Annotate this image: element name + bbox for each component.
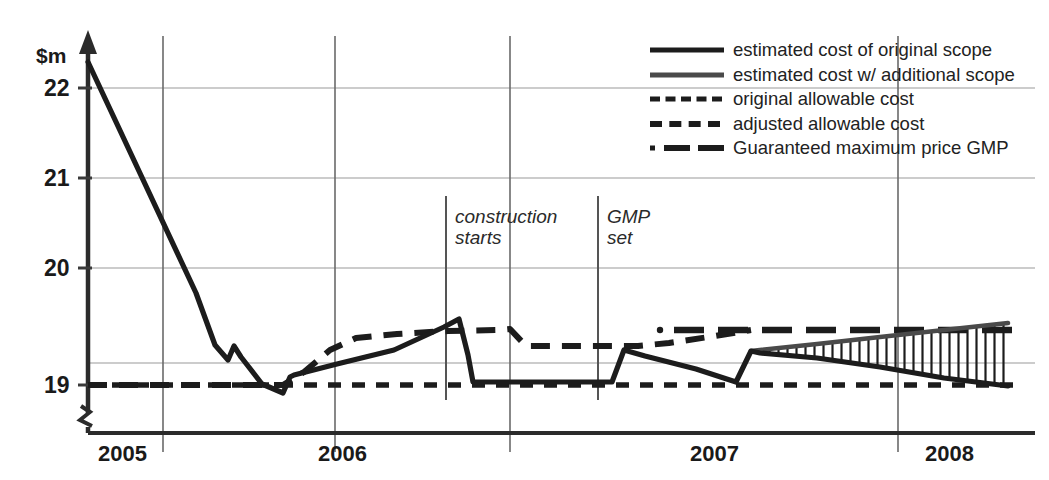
legend-swatch-solid-grey-icon — [650, 66, 724, 84]
legend-label-4: Guaranteed maximum price GMP — [733, 137, 1009, 159]
annotation-construction-starts: construction starts — [455, 206, 557, 249]
legend-swatch-solid-icon — [650, 41, 724, 59]
legend-item-estimated-cost-original-scope: estimated cost of original scope — [650, 38, 1042, 63]
annotation-construction-line2: starts — [455, 227, 557, 248]
x-tick-label-2007: 2007 — [690, 441, 739, 467]
annotation-gmp-line2: set — [607, 227, 650, 248]
annotation-construction-line1: construction — [455, 206, 557, 227]
legend-label-3: adjusted allowable cost — [733, 113, 924, 135]
legend-swatch-dash-dot-icon — [650, 139, 724, 157]
y-axis-unit-label: $m — [36, 44, 66, 68]
legend-swatch-dotted-icon — [650, 90, 724, 108]
annotation-gmp-set: GMP set — [607, 206, 650, 249]
legend-swatch-dashed-icon — [650, 115, 724, 133]
annotation-gmp-line1: GMP — [607, 206, 650, 227]
x-tick-label-2005: 2005 — [98, 441, 147, 467]
y-tick-label-20: 20 — [44, 255, 70, 282]
legend-item-estimated-cost-additional-scope: estimated cost w/ additional scope — [650, 63, 1042, 88]
legend-label-2: original allowable cost — [733, 88, 914, 110]
y-tick-label-22: 22 — [44, 75, 70, 102]
chart-legend: estimated cost of original scope estimat… — [650, 38, 1042, 161]
y-tick-label-19: 19 — [44, 372, 70, 399]
x-tick-label-2008: 2008 — [925, 441, 974, 467]
cost-trend-chart: $m 22 21 20 19 2005 2006 2007 2008 const… — [0, 0, 1049, 480]
y-axis — [79, 30, 97, 433]
y-tick-label-21: 21 — [44, 165, 70, 192]
legend-item-original-allowable-cost: original allowable cost — [650, 87, 1042, 112]
legend-label-1: estimated cost w/ additional scope — [733, 64, 1015, 86]
legend-item-adjusted-allowable-cost: adjusted allowable cost — [650, 112, 1042, 137]
legend-label-0: estimated cost of original scope — [733, 39, 992, 61]
legend-item-gmp: Guaranteed maximum price GMP — [650, 136, 1042, 161]
x-tick-label-2006: 2006 — [318, 441, 367, 467]
